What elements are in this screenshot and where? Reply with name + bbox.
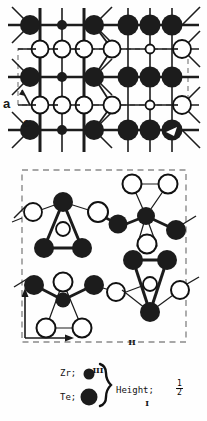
atom-zr-open (146, 45, 155, 54)
legend-marker-te (81, 389, 98, 406)
atom-zr-filled (57, 20, 67, 30)
atom-te-open (24, 203, 42, 221)
atom-te-filled (53, 192, 73, 212)
cluster-lower-left (14, 273, 104, 338)
atom-te-filled (34, 238, 54, 258)
cluster-upper-left (12, 192, 95, 258)
atom-te-filled (84, 15, 104, 35)
legend-label-te: Te; (60, 392, 76, 402)
atom-zr-filled (57, 72, 67, 82)
atom-te-filled (84, 275, 104, 295)
legend-label-height: Height; (116, 385, 154, 395)
bond-edge-right-lower (187, 277, 199, 284)
axis-label-c-top: c (23, 116, 30, 129)
atom-te-open (37, 319, 56, 338)
figure-root: a c (0, 0, 207, 421)
atom-te-filled (118, 15, 139, 36)
atom-te-filled (72, 238, 92, 258)
atom-te-filled (84, 120, 104, 140)
cluster-lower-right (122, 250, 199, 322)
atom-te-open (107, 283, 125, 301)
atom-zr-filled (56, 293, 71, 308)
bond-edge-right (183, 216, 196, 224)
atom-te-open (104, 41, 121, 58)
legend-marker-zr (84, 369, 95, 380)
atom-te-filled (24, 275, 44, 295)
atom-te-open (73, 319, 92, 338)
atom-site-I (138, 235, 157, 254)
atom-site-II (123, 175, 142, 194)
legend: Zr; Te; Height; 1 2 (0, 352, 207, 421)
atom-te-filled (137, 207, 155, 225)
atom-zr-filled (57, 125, 67, 135)
atom-zr-open (146, 101, 155, 110)
atom-te-filled (118, 120, 139, 141)
panel-top-ac-projection: a c (0, 0, 207, 160)
legend-brace-icon (100, 364, 111, 406)
cluster-upper-right (123, 175, 197, 254)
panel-bottom-bc-projection: b c III II I (0, 160, 207, 355)
atom-zr-open (143, 277, 157, 291)
site-label-II: II (126, 337, 138, 347)
atom-te-filled (118, 67, 139, 88)
atom-te-filled (162, 67, 183, 88)
atom-te-filled (140, 120, 161, 141)
atom-te-open (104, 97, 121, 114)
legend-height-fraction: 1 2 (176, 379, 183, 398)
atom-te-filled (123, 250, 143, 270)
axis-arrows-top (19, 90, 30, 105)
atom-te-filled (140, 15, 161, 36)
legend-label-zr: Zr; (60, 368, 76, 378)
atom-te-filled (162, 15, 183, 36)
atom-te-filled (166, 220, 186, 240)
atom-te-filled (109, 215, 128, 234)
panel-top-svg (0, 0, 207, 160)
atom-te-filled (140, 67, 161, 88)
atom-te-filled (157, 250, 177, 270)
atom-te-open (171, 281, 189, 299)
atom-zr-open (56, 222, 70, 236)
atom-te-filled (20, 67, 40, 87)
atom-te-filled (84, 67, 104, 87)
fraction-denominator: 2 (176, 389, 183, 397)
atom-site-III (88, 202, 108, 222)
atom-te-filled (140, 302, 160, 322)
atom-te-open (54, 273, 73, 292)
panel-bottom-svg (0, 160, 207, 355)
atom-te-open (159, 175, 178, 194)
axis-label-a-top: a (3, 97, 10, 110)
atom-te-filled (20, 15, 40, 35)
